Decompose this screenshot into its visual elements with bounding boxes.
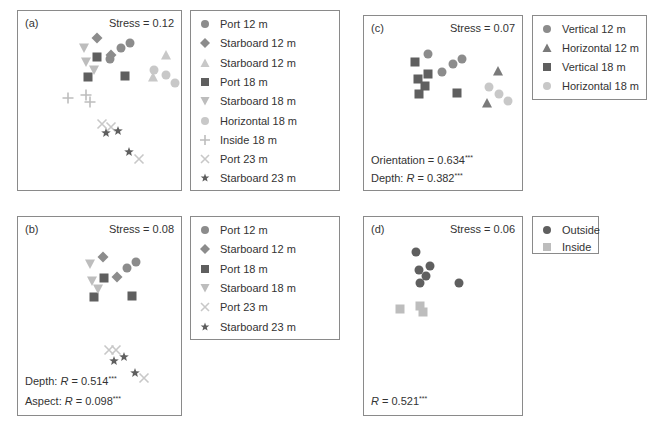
legend-item: Inside 18 m	[199, 132, 277, 148]
square-marker-icon	[541, 61, 553, 73]
legend-label: Starboard 18 m	[220, 282, 296, 294]
legend-item: Port 23 m	[199, 151, 268, 167]
circle-marker-icon	[541, 23, 553, 35]
legend-item: Starboard 12 m	[199, 35, 296, 51]
stat-depth: Depth: R = 0.382***	[371, 172, 463, 184]
legend-item: Horizontal 18 m	[541, 78, 639, 94]
panel-c: (c) Stress = 0.07 Orientation = 0.634***…	[363, 15, 523, 191]
legend-label: Vertical 12 m	[562, 23, 626, 35]
diamond-marker-icon	[199, 37, 211, 49]
legend-label: Port 18 m	[220, 76, 268, 88]
legend-label: Vertical 18 m	[562, 61, 626, 73]
legend-label: Starboard 23 m	[220, 321, 296, 333]
stat-aspect: Aspect: R = 0.098***	[25, 395, 121, 407]
triangle-down-marker-icon	[199, 282, 211, 294]
legend-item: Starboard 23 m	[199, 170, 296, 186]
circle-marker-icon	[199, 18, 211, 30]
legend-item: Vertical 18 m	[541, 59, 626, 75]
circle-marker-icon	[199, 224, 211, 236]
star-marker-icon	[199, 321, 211, 333]
legend-item: Horizontal 18 m	[199, 113, 297, 129]
legend-label: Inside 18 m	[220, 134, 277, 146]
legend-label: Starboard 12 m	[220, 243, 296, 255]
legend-label: Outside	[562, 224, 600, 236]
stat-orientation: Orientation = 0.634***	[371, 154, 473, 166]
legend-label: Inside	[562, 241, 591, 253]
legend-item: Starboard 12 m	[199, 241, 296, 257]
legend-label: Starboard 18 m	[220, 95, 296, 107]
scatter-plot-d	[364, 217, 524, 417]
legend-item: Inside	[541, 239, 591, 255]
legend-label: Port 12 m	[220, 224, 268, 236]
legend-item: Port 18 m	[199, 261, 268, 277]
legend-label: Horizontal 18 m	[220, 115, 297, 127]
scatter-plot-a	[18, 11, 183, 192]
legend-b: Port 12 mStarboard 12 mPort 18 mStarboar…	[190, 216, 340, 340]
diamond-marker-icon	[199, 243, 211, 255]
circle-marker-icon	[541, 224, 553, 236]
stat-depth: Depth: R = 0.514***	[25, 375, 117, 387]
scatter-plot-b	[18, 217, 183, 417]
x-marker-icon	[199, 153, 211, 165]
plus-marker-icon	[199, 134, 211, 146]
legend-item: Starboard 18 m	[199, 93, 296, 109]
legend-label: Starboard 12 m	[220, 37, 296, 49]
legend-item: Outside	[541, 222, 600, 238]
legend-item: Port 12 m	[199, 222, 268, 238]
legend-label: Horizontal 18 m	[562, 80, 639, 92]
square-marker-icon	[199, 76, 211, 88]
legend-label: Port 18 m	[220, 263, 268, 275]
legend-item: Port 18 m	[199, 74, 268, 90]
legend-item: Starboard 23 m	[199, 319, 296, 335]
legend-item: Port 12 m	[199, 16, 268, 32]
square-marker-icon	[541, 241, 553, 253]
legend-item: Vertical 12 m	[541, 21, 626, 37]
square-marker-icon	[199, 263, 211, 275]
legend-label: Starboard 23 m	[220, 172, 296, 184]
legend-d: OutsideInside	[532, 216, 599, 254]
triangle-down-marker-icon	[199, 95, 211, 107]
legend-label: Port 23 m	[220, 301, 268, 313]
x-marker-icon	[199, 301, 211, 313]
circle-marker-icon	[541, 80, 553, 92]
stat-r: R = 0.521***	[371, 395, 427, 407]
triangle-up-marker-icon	[541, 42, 553, 54]
panel-a: (a) Stress = 0.12	[17, 10, 182, 191]
panel-d: (d) Stress = 0.06 R = 0.521***	[363, 216, 523, 416]
legend-item: Starboard 12 m	[199, 55, 296, 71]
legend-a: Port 12 mStarboard 12 mStarboard 12 mPor…	[190, 10, 340, 191]
legend-label: Port 12 m	[220, 18, 268, 30]
circle-marker-icon	[199, 115, 211, 127]
legend-label: Port 23 m	[220, 153, 268, 165]
panel-b: (b) Stress = 0.08 Depth: R = 0.514*** As…	[17, 216, 182, 416]
legend-label: Horizontal 12 m	[562, 42, 639, 54]
legend-item: Horizontal 12 m	[541, 40, 639, 56]
legend-c: Vertical 12 mHorizontal 12 mVertical 18 …	[532, 15, 647, 100]
legend-item: Port 23 m	[199, 299, 268, 315]
legend-item: Starboard 18 m	[199, 280, 296, 296]
star-marker-icon	[199, 172, 211, 184]
legend-label: Starboard 12 m	[220, 57, 296, 69]
triangle-up-marker-icon	[199, 57, 211, 69]
